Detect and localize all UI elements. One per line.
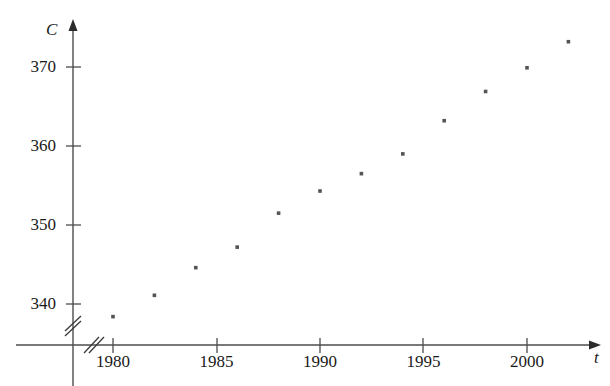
data-point xyxy=(401,152,405,156)
y-tick-label: 360 xyxy=(10,136,56,156)
data-point xyxy=(525,66,529,70)
data-point xyxy=(442,119,446,123)
x-tick-label: 1990 xyxy=(290,352,350,372)
y-tick-label: 340 xyxy=(10,294,56,314)
data-point xyxy=(277,211,281,215)
data-point xyxy=(153,294,157,298)
y-tick-label: 370 xyxy=(10,57,56,77)
x-tick-label: 1985 xyxy=(187,352,247,372)
y-axis-title: C xyxy=(46,20,57,40)
x-tick-label: 1980 xyxy=(83,352,143,372)
data-point xyxy=(360,172,364,176)
x-axis-title: t xyxy=(594,348,599,368)
data-point xyxy=(111,315,115,319)
data-point xyxy=(567,40,571,44)
co2-scatter-figure: C t 340350360370 19801985199019952000 xyxy=(0,0,610,386)
x-tick-label: 1995 xyxy=(394,352,454,372)
data-point-group xyxy=(111,40,570,319)
chart-canvas xyxy=(0,0,610,386)
data-point xyxy=(318,189,322,193)
data-point xyxy=(194,266,198,270)
x-tick-label: 2000 xyxy=(497,352,557,372)
data-point xyxy=(484,90,488,94)
y-tick-label: 350 xyxy=(10,215,56,235)
data-point xyxy=(235,245,239,249)
y-axis-arrowhead xyxy=(69,19,78,31)
